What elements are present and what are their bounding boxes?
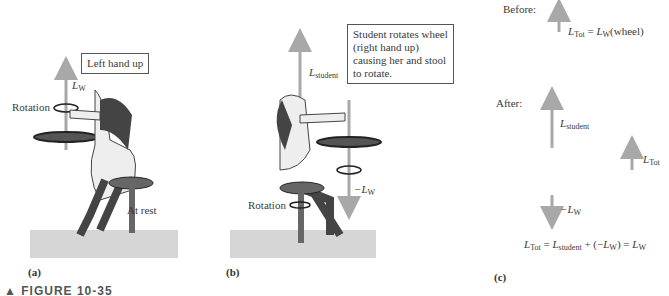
panel-a-letter: (a)	[28, 266, 41, 278]
before-equation: LTot = LW(wheel)	[568, 25, 644, 39]
panel-a-vector-label: LW	[72, 79, 86, 93]
panel-b-wheel-vector: −LW	[354, 183, 375, 197]
final-equation: LTot = Lstudent + (−LW) = LW	[524, 238, 646, 252]
after-label: After:	[496, 97, 522, 109]
panel-b-letter: (b)	[226, 266, 239, 278]
figure-caption: ▲ FIGURE 10-35	[4, 284, 113, 296]
panel-b-callout: Student rotates wheel (right hand up) ca…	[347, 24, 454, 84]
after-tot-vector: LTot	[643, 153, 660, 167]
panel-a-figure	[30, 68, 178, 258]
panel-a-state-label: At rest	[127, 204, 157, 216]
panel-c-letter: (c)	[494, 271, 506, 283]
panel-c-vectors	[552, 10, 632, 218]
before-label: Before:	[503, 3, 536, 15]
panel-a-rotation-label: Rotation	[12, 101, 50, 113]
after-student-vector: Lstudent	[560, 117, 589, 131]
panel-b-student-vector: Lstudent	[309, 66, 338, 80]
after-neg-vector: −LW	[560, 203, 581, 217]
panel-a-callout: Left hand up	[81, 53, 149, 74]
panel-b-rotation-label: Rotation	[248, 199, 286, 211]
